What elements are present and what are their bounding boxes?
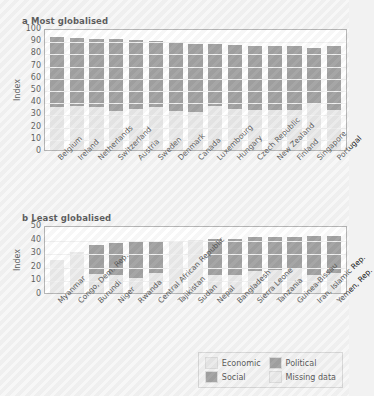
stacked-bar[interactable] [307, 48, 321, 150]
y-tick-label: 20 [31, 263, 41, 271]
bar-segment-social-political [89, 39, 103, 107]
bar-segment-social-political [307, 48, 321, 104]
x-label-slot: Yemen, Rep. [325, 294, 345, 295]
bar-slot [87, 30, 107, 150]
stacked-bar[interactable] [169, 43, 183, 150]
gridline [45, 241, 346, 242]
x-label-slot: Belgium [46, 151, 66, 152]
panel-b: b Least globalised Index 01020304050 Mya… [0, 213, 349, 294]
bar-segment-social-political [70, 38, 84, 106]
x-label-slot: Niger [106, 294, 126, 295]
x-label-slot: Burundi [86, 294, 106, 295]
y-tick-label: 10 [31, 276, 41, 284]
x-label-slot: Canada [186, 151, 206, 152]
x-label-slot: Ireland [66, 151, 86, 152]
y-tick-label: 20 [31, 123, 41, 131]
legend-label: Economic [222, 359, 261, 368]
x-label-slot: Sweden [146, 151, 166, 152]
panel-a-x-axis-labels: BelgiumIrelandNetherlandsSwitzerlandAust… [44, 151, 347, 152]
legend-label: Social [222, 373, 246, 382]
y-tick-label: 10 [31, 135, 41, 143]
bar-segment-social-political [228, 239, 242, 276]
gridline [45, 103, 346, 104]
bar-segment-missing-data [50, 260, 64, 293]
gridline [45, 115, 346, 116]
panel-b-title: b Least globalised [22, 213, 349, 223]
x-label-slot: Congo, Dem. Rep. [66, 294, 86, 295]
legend-swatch [205, 371, 218, 383]
bar-segment-social-political [169, 43, 183, 111]
stacked-bar[interactable] [89, 39, 103, 150]
x-label-slot: Bangladesh [225, 294, 245, 295]
y-tick-label: 0 [36, 147, 41, 155]
panel-b-x-axis-labels: MyanmarCongo, Dem. Rep.BurundiNigerRwand… [44, 294, 347, 295]
bar-segment-social-political [307, 236, 321, 275]
y-tick-label: 80 [31, 49, 41, 57]
x-label-slot: Singapore [305, 151, 325, 152]
bar-slot [47, 30, 67, 150]
gridline [45, 254, 346, 255]
bar-segment-social-political [50, 37, 64, 108]
x-label-slot: Nepal [206, 294, 226, 295]
bar-slot [47, 227, 67, 293]
x-label-slot: Sierra Leone [245, 294, 265, 295]
bar-slot [205, 30, 225, 150]
x-label-slot: Austria [126, 151, 146, 152]
x-label-slot: Myanmar [46, 294, 66, 295]
legend-label: Missing data [286, 373, 336, 382]
y-tick-label: 50 [31, 222, 41, 230]
legend-item[interactable]: Economic [205, 357, 261, 369]
x-label-slot: Switzerland [106, 151, 126, 152]
x-label-slot: Guinea-Bissau [285, 294, 305, 295]
panel-b-y-axis: 01020304050 [22, 226, 44, 294]
legend-label: Political [286, 359, 317, 368]
panel-a-title: a Most globalised [22, 16, 349, 26]
panel-a-ylabel: Index [13, 79, 22, 101]
legend-item[interactable]: Political [269, 357, 336, 369]
y-tick-label: 50 [31, 86, 41, 94]
y-tick-label: 0 [36, 290, 41, 298]
bar-slot [166, 30, 186, 150]
legend-swatch [205, 357, 218, 369]
bar-segment-economic [50, 107, 64, 150]
x-label-slot: Denmark [166, 151, 186, 152]
x-label-slot: Tajikistan [166, 294, 186, 295]
gridline [45, 79, 346, 80]
bar-segment-social-political [208, 44, 222, 106]
bar-segment-social-political [149, 41, 163, 107]
legend-swatch [269, 357, 282, 369]
panel-b-ylabel: Index [13, 249, 22, 271]
gridline [45, 54, 346, 55]
y-tick-label: 40 [31, 236, 41, 244]
stacked-bar[interactable] [208, 44, 222, 150]
gridline [45, 67, 346, 68]
bar-segment-social-political [129, 40, 143, 108]
bar-segment-social-political [129, 241, 143, 278]
gridline [45, 91, 346, 92]
bar-slot [126, 227, 146, 293]
x-label-slot: Czech Republic [245, 151, 265, 152]
legend-item[interactable]: Missing data [269, 371, 336, 383]
x-label-slot: Luxembourg [206, 151, 226, 152]
panel-a-y-axis: 0102030405060708090100 [22, 29, 44, 151]
y-tick-label: 90 [31, 37, 41, 45]
stacked-bar[interactable] [149, 41, 163, 150]
legend-item[interactable]: Social [205, 371, 261, 383]
y-tick-label: 30 [31, 249, 41, 257]
x-label-slot: Netherlands [86, 151, 106, 152]
legend: EconomicPoliticalSocialMissing data [198, 352, 343, 388]
x-label-slot: New Zealand [265, 151, 285, 152]
x-label-slot: Sudan [186, 294, 206, 295]
x-label-slot: Finland [285, 151, 305, 152]
bar-segment-social-political [89, 245, 103, 274]
y-tick-label: 40 [31, 98, 41, 106]
y-tick-label: 30 [31, 110, 41, 118]
panel-a: a Most globalised Index 0102030405060708… [0, 16, 349, 151]
y-tick-label: 100 [26, 25, 41, 33]
x-label-slot: Rwanda [126, 294, 146, 295]
stacked-bar[interactable] [50, 260, 64, 293]
y-tick-label: 60 [31, 74, 41, 82]
x-label-slot: Tanzania [265, 294, 285, 295]
legend-swatch [269, 371, 282, 383]
